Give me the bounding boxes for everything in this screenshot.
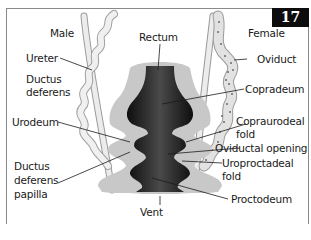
label-uroproctodeal-fold-1: Uroproctadeal [222, 157, 294, 169]
label-proctodeum: Proctodeum [231, 193, 292, 205]
label-oviductal-opening: Oviductal opening [215, 142, 307, 154]
label-ddp-2: deferens [14, 174, 58, 186]
label-rectum: Rectum [139, 31, 178, 43]
label-ureter: Ureter [26, 52, 58, 64]
label-ductus-deferens-2: deferens [26, 86, 70, 98]
label-copradeum: Copradeum [245, 83, 304, 95]
label-oviduct: Oviduct [257, 53, 296, 65]
label-uroproctodeal-fold-2: fold [222, 170, 241, 182]
label-male: Male [50, 27, 74, 39]
label-ductus-deferens-1: Ductus [26, 73, 62, 85]
label-ddp-1: Ductus [14, 160, 50, 172]
label-urodeum: Urodeum [12, 116, 59, 128]
label-ddp-3: papilla [14, 188, 48, 200]
label-vent: Vent [140, 206, 163, 218]
label-coprourodeal-fold-2: fold [236, 128, 255, 140]
label-female: Female [248, 27, 285, 39]
label-coprourodeal-fold-1: Copraurodeal [236, 115, 304, 127]
